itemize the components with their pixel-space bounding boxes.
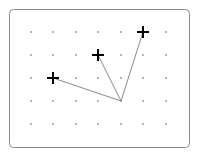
grid-dot[interactable] [120,123,121,124]
grid-dot[interactable] [97,31,98,32]
cross-marker-icon[interactable] [47,72,59,84]
board-frame [10,10,190,148]
grid-dot[interactable] [165,123,166,124]
grid-dot[interactable] [120,54,121,55]
grid-dot[interactable] [75,77,76,78]
grid-dot[interactable] [120,31,121,32]
grid-dot[interactable] [30,54,31,55]
grid-dot[interactable] [30,123,31,124]
grid-dot[interactable] [75,54,76,55]
grid-dot[interactable] [165,100,166,101]
connector-lines [53,32,143,101]
grid-dot[interactable] [97,77,98,78]
grid-dot[interactable] [142,100,143,101]
cross-marker-icon[interactable] [92,49,104,61]
grid-dot[interactable] [52,54,53,55]
grid-dot[interactable] [30,100,31,101]
grid-dot[interactable] [52,100,53,101]
geoboard [0,0,200,158]
grid-dot[interactable] [165,31,166,32]
grid-dot[interactable] [30,77,31,78]
grid-dot[interactable] [165,77,166,78]
grid-dot[interactable] [142,123,143,124]
grid-dot[interactable] [142,77,143,78]
connector-line [121,32,143,101]
grid-dot[interactable] [52,31,53,32]
cross-marker-icon[interactable] [137,26,149,38]
grid-dot[interactable] [52,123,53,124]
grid-dot[interactable] [75,100,76,101]
grid-dot[interactable] [97,123,98,124]
grid-dot[interactable] [97,100,98,101]
grid-dot[interactable] [75,31,76,32]
cross-markers[interactable] [47,26,149,84]
grid-dot[interactable] [142,54,143,55]
grid-dot[interactable] [120,77,121,78]
grid-dot[interactable] [30,31,31,32]
grid-dot[interactable] [165,54,166,55]
grid-dot[interactable] [75,123,76,124]
